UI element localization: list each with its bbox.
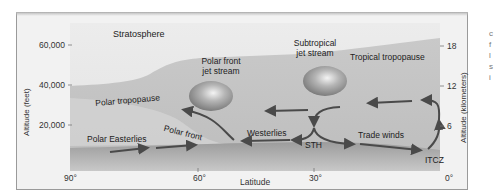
left-tick-40000: 40,000 [39, 81, 65, 90]
right-tick-6: 6 [447, 122, 452, 131]
sth-label: STH [305, 141, 322, 150]
circulation-diagram [0, 0, 497, 196]
left-axis-title: Altitude (feet) [23, 88, 31, 136]
tropical-tropopause-label: Tropical tropopause [350, 53, 425, 62]
bottom-tick-0: 0° [445, 174, 453, 183]
itcz-label: ITCZ [425, 156, 444, 165]
polar-easterlies-label: Polar Easterlies [87, 135, 147, 144]
bottom-tick-90: 90° [64, 174, 77, 183]
side-fragment: i [489, 74, 491, 82]
left-tick-20000: 20,000 [39, 121, 65, 130]
subtropical-jet-icon [303, 66, 347, 96]
polar-front-jet-label: Polar front jet stream [191, 57, 251, 75]
stratosphere-label: Stratosphere [113, 30, 165, 39]
westerlies-arrow [244, 140, 290, 141]
westerlies-label: Westerlies [247, 129, 287, 138]
side-fragment: c [489, 30, 493, 38]
side-fragment: s [489, 63, 493, 71]
subtropical-jet-label: Subtropical jet stream [285, 39, 345, 57]
side-fragment: f [489, 41, 491, 49]
bottom-tick-60: 60° [193, 174, 206, 183]
right-axis-title: Altitude (kilometers) [460, 72, 468, 143]
trade-winds-label: Trade winds [358, 131, 404, 140]
side-fragment: l [489, 52, 491, 60]
bottom-axis-title: Latitude [240, 178, 270, 187]
right-tick-12: 12 [447, 82, 456, 91]
polar-front-jet-icon [189, 81, 233, 111]
left-tick-60000: 60,000 [39, 41, 65, 50]
bottom-tick-30: 30° [309, 174, 322, 183]
right-tick-18: 18 [447, 42, 456, 51]
upper-westward-arrow [268, 110, 308, 111]
